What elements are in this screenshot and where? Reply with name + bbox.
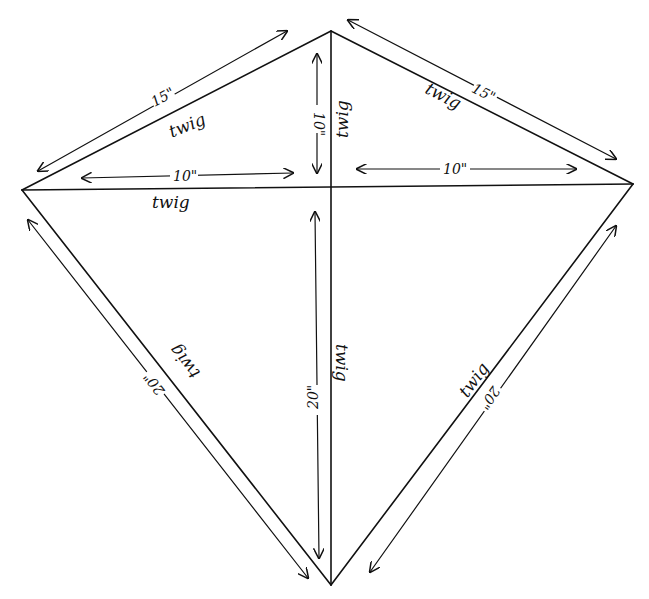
cross-spar [22,184,633,190]
dim-label-right-spar: 10" [443,161,467,177]
edge-top-left [22,31,331,190]
twig-label-top-left: twig [166,109,209,142]
dim-label-upper-spine: 10" [311,112,327,136]
twig-label-cross-spar: twig [152,192,190,212]
dim-label-left-spar: 10" [173,168,197,184]
dimension-arrows [28,20,616,578]
twig-label-top-right: twig [422,78,465,113]
dim-arrow-bottom-left [28,220,308,578]
dim-label-top-left: 15" [148,84,177,110]
kite-diagram: 15" 15" 10" 10" 10" 20" 20" 20" twig twi… [0,0,649,599]
edge-top-right [331,31,633,184]
dim-label-lower-spine: 20" [305,385,321,410]
twig-label-lower-spine: twig [332,344,352,382]
edge-left-bottom [22,190,331,585]
twig-label-bottom-left: twig [165,341,204,383]
twig-label-upper-spine: twig [332,100,352,138]
